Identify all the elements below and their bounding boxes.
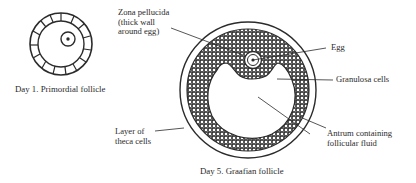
follicle-diagram: Day 1. Primordial follicle Zona pellucid…: [0, 0, 416, 183]
label-egg: Egg: [331, 43, 345, 53]
label-theca-cells: Layer of theca cells: [115, 127, 151, 146]
primordial-follicle: [30, 13, 92, 75]
graafian-caption: Day 5. Graafian follicle: [200, 166, 284, 176]
label-antrum-line2: follicular fluid: [327, 139, 392, 149]
primordial-caption: Day 1. Primordial follicle: [15, 84, 105, 94]
label-theca-line2: theca cells: [115, 137, 151, 147]
graafian-follicle: [180, 22, 316, 158]
label-zona-pellucida: Zona pellucida (thick wall around egg): [118, 8, 169, 37]
label-granulosa-cells: Granulosa cells: [336, 75, 389, 85]
label-zona-line3: around egg): [118, 27, 169, 37]
label-antrum: Antrum containing follicular fluid: [327, 129, 392, 148]
